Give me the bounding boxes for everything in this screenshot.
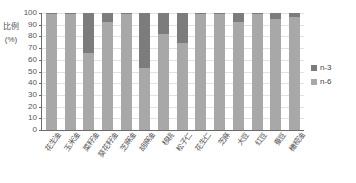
bar-segment-n3 — [102, 13, 113, 22]
plot-area: 1009080706050403020100 — [41, 13, 304, 131]
legend-label: n-3 — [320, 64, 332, 72]
legend-item[interactable]: n-3 — [311, 62, 332, 74]
bar-segment-n6 — [214, 14, 225, 130]
bar-column[interactable] — [102, 13, 113, 130]
x-axis-label: 胡麻油 — [137, 131, 156, 153]
bar-column[interactable] — [233, 13, 244, 130]
bar-segment-n6 — [139, 68, 150, 130]
bar-column[interactable] — [214, 13, 225, 130]
bar-segment-n6 — [270, 19, 281, 130]
bar-segment-n3 — [233, 13, 244, 22]
y-axis-tick-label: 0 — [33, 126, 37, 134]
y-axis-tick-label: 40 — [28, 79, 37, 87]
y-axis-tick-label: 20 — [28, 103, 37, 111]
bar-segment-n3 — [139, 13, 150, 68]
bar-segment-n6 — [195, 14, 206, 130]
bar-segment-n6 — [121, 14, 132, 130]
bar-column[interactable] — [177, 13, 188, 130]
y-axis-tick-label: 30 — [28, 91, 37, 99]
bar-segment-n6 — [233, 22, 244, 130]
legend-swatch — [311, 79, 317, 85]
bar-segment-n6 — [46, 14, 57, 130]
y-axis-tick-label: 70 — [28, 44, 37, 52]
bar-column[interactable] — [65, 13, 76, 130]
x-axis-label: 玉米油 — [62, 131, 81, 153]
y-axis-tick-label: 90 — [28, 21, 37, 29]
bar-column[interactable] — [139, 13, 150, 130]
bar-segment-n6 — [252, 14, 263, 130]
chart-root: 比例 (%) 1009080706050403020100 花生油玉米油菜籽油葵… — [0, 0, 356, 183]
y-axis-tick-label: 50 — [28, 68, 37, 76]
bar-segment-n3 — [177, 13, 188, 43]
x-axis-label: 红豆 — [253, 131, 268, 148]
x-axis-labels: 花生油玉米油菜籽油葵花籽油芝麻油胡麻油核桃松子仁花生仁芝麻大豆红豆蚕豆橄榄油 — [41, 131, 303, 183]
legend-item[interactable]: n-6 — [311, 76, 332, 88]
bar-segment-n6 — [177, 43, 188, 130]
bar-column[interactable] — [121, 13, 132, 130]
legend-label: n-6 — [320, 78, 332, 86]
bar-segment-n6 — [83, 53, 94, 130]
x-axis-label: 花生仁 — [193, 131, 212, 153]
x-axis-label: 花生油 — [43, 131, 62, 153]
bar-segment-n6 — [289, 17, 300, 130]
x-axis-label: 蚕豆 — [272, 131, 287, 148]
x-axis-label: 大豆 — [234, 131, 249, 148]
bar-segment-n6 — [102, 22, 113, 130]
bar-column[interactable] — [252, 13, 263, 130]
bar-segment-n6 — [65, 14, 76, 130]
legend-swatch — [311, 65, 317, 71]
x-axis-label: 芝麻 — [216, 131, 231, 148]
bar-column[interactable] — [195, 13, 206, 130]
x-axis-label: 核桃 — [160, 131, 175, 148]
x-axis-label: 松子仁 — [174, 131, 193, 153]
y-axis-title-unit: (%) — [2, 35, 20, 45]
bar-column[interactable] — [46, 13, 57, 130]
bar-column[interactable] — [83, 13, 94, 130]
bar-segment-n6 — [158, 34, 169, 130]
bar-column[interactable] — [158, 13, 169, 130]
y-axis-tick-label: 100 — [24, 9, 37, 17]
y-axis-tick-label: 80 — [28, 32, 37, 40]
x-axis-label: 橄榄油 — [287, 131, 306, 153]
bar-group — [42, 13, 304, 130]
y-axis-title: 比例 (%) — [2, 22, 20, 45]
y-axis-title-text: 比例 — [2, 22, 20, 32]
bar-segment-n3 — [83, 13, 94, 53]
x-axis-label: 芝麻油 — [118, 131, 137, 153]
y-axis-tick-label: 10 — [28, 114, 37, 122]
bar-column[interactable] — [270, 13, 281, 130]
chart-legend: n-3n-6 — [311, 62, 332, 90]
bar-segment-n3 — [158, 13, 169, 34]
bar-column[interactable] — [289, 13, 300, 130]
y-axis-tick-label: 60 — [28, 56, 37, 64]
